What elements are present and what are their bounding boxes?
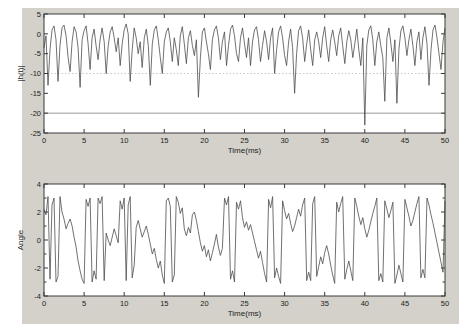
y-tick-label: -4 bbox=[34, 292, 41, 301]
x-axis-label: Time(ms) bbox=[228, 146, 262, 155]
x-tick-label: 5 bbox=[82, 136, 86, 145]
y-tick-label: 0 bbox=[37, 30, 41, 39]
magnitude-plot: 0510152025303540455050-5-10-15-20-25Time… bbox=[16, 10, 449, 155]
x-tick-label: 45 bbox=[401, 136, 409, 145]
x-tick-label: 40 bbox=[361, 299, 369, 308]
x-axis-label: Time(ms) bbox=[228, 309, 262, 318]
y-tick-label: -25 bbox=[30, 129, 41, 138]
x-tick-label: 40 bbox=[361, 136, 369, 145]
x-tick-label: 15 bbox=[160, 136, 168, 145]
y-tick-label: -2 bbox=[34, 264, 41, 273]
y-tick-label: -5 bbox=[34, 49, 41, 58]
y-tick-label: 4 bbox=[37, 180, 41, 189]
x-tick-label: 10 bbox=[120, 136, 128, 145]
x-tick-label: 10 bbox=[120, 299, 128, 308]
y-tick-label: 5 bbox=[37, 10, 41, 19]
x-tick-label: 20 bbox=[200, 299, 208, 308]
x-tick-label: 15 bbox=[160, 299, 168, 308]
x-tick-label: 0 bbox=[42, 136, 46, 145]
y-tick-label: 0 bbox=[37, 236, 41, 245]
x-tick-label: 30 bbox=[280, 299, 288, 308]
y-tick-label: -10 bbox=[30, 69, 41, 78]
y-tick-label: 2 bbox=[37, 208, 41, 217]
matlab-figure-canvas: 0510152025303540455050-5-10-15-20-25Time… bbox=[0, 0, 474, 333]
x-tick-label: 30 bbox=[280, 136, 288, 145]
x-tick-label: 45 bbox=[401, 299, 409, 308]
x-tick-label: 35 bbox=[321, 136, 329, 145]
y-tick-label: -15 bbox=[30, 89, 41, 98]
scanned-figure-page: 0510152025303540455050-5-10-15-20-25Time… bbox=[0, 0, 474, 333]
x-tick-label: 35 bbox=[321, 299, 329, 308]
x-tick-label: 50 bbox=[441, 136, 449, 145]
y-tick-label: -20 bbox=[30, 109, 41, 118]
y-axis-label: |h(t)| bbox=[16, 65, 25, 81]
x-tick-label: 50 bbox=[441, 299, 449, 308]
x-tick-label: 5 bbox=[82, 299, 86, 308]
x-tick-label: 20 bbox=[200, 136, 208, 145]
y-axis-label: Angle bbox=[16, 229, 25, 250]
x-tick-label: 0 bbox=[42, 299, 46, 308]
x-tick-label: 25 bbox=[240, 299, 248, 308]
x-tick-label: 25 bbox=[240, 136, 248, 145]
